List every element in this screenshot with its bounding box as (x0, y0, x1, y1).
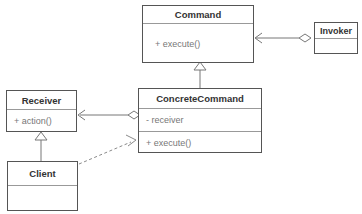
class-name-command: Command (143, 6, 253, 24)
relationship-concretecommand-receiver[interactable] (78, 110, 140, 120)
class-name-invoker: Invoker (315, 23, 357, 39)
class-members-invoker (315, 39, 357, 46)
class-name-concretecommand: ConcreteCommand (139, 89, 261, 109)
class-member-receiver-action: + action() (7, 110, 76, 132)
class-member-command-execute: + execute() (143, 24, 253, 63)
relationship-concretecommand-command[interactable] (194, 62, 206, 88)
class-box-client[interactable]: Client (7, 161, 78, 211)
open-arrowhead-icon (126, 135, 136, 146)
hollow-triangle-icon (194, 62, 206, 70)
relationship-client-receiver[interactable] (35, 132, 47, 161)
class-member-concretecommand-execute: + execute() (139, 131, 261, 153)
uml-class-diagram: Command + execute() Invoker ConcreteComm… (0, 0, 362, 214)
class-name-client: Client (8, 162, 77, 186)
class-box-invoker[interactable]: Invoker (314, 22, 358, 54)
hollow-diamond-icon (299, 34, 311, 42)
class-members-client (8, 186, 77, 211)
class-box-concretecommand[interactable]: ConcreteCommand - receiver + execute() (138, 88, 262, 153)
class-box-receiver[interactable]: Receiver + action() (6, 90, 77, 132)
relationship-invoker-command[interactable] (255, 33, 311, 43)
class-name-receiver: Receiver (7, 91, 76, 110)
hollow-triangle-icon (35, 132, 47, 140)
class-box-command[interactable]: Command + execute() (142, 5, 254, 63)
connector-line-client-concretecommand (79, 142, 131, 164)
relationship-client-concretecommand[interactable] (79, 135, 136, 164)
class-member-concretecommand-receiver: - receiver (139, 109, 261, 131)
